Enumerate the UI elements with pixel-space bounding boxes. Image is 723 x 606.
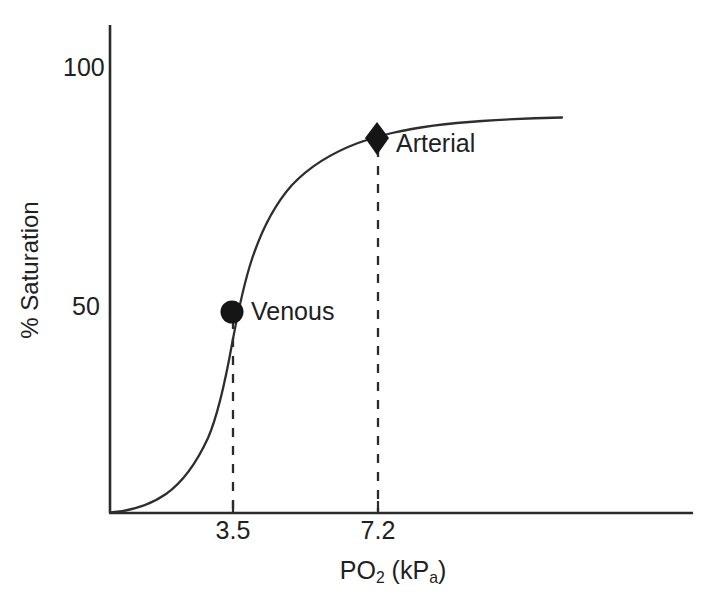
annotation-label-venous: Venous [251, 299, 334, 324]
marker-arterial [365, 122, 389, 155]
x-axis-title-pre: PO [340, 556, 376, 584]
x-axis-tick-label-arterial: 7.2 [361, 518, 396, 543]
x-axis-title-sub-2: 2 [376, 569, 385, 586]
x-axis-title-post: ) [438, 556, 446, 584]
x-axis-title: PO2 (kPa) [340, 558, 446, 586]
x-axis-tick-label-venous: 3.5 [216, 518, 251, 543]
x-axis-title-mid: (kP [385, 556, 429, 584]
marker-venous [221, 301, 244, 324]
y-axis-tick-label-50: 50 [72, 294, 100, 319]
x-axis-title-sub-a: a [429, 569, 438, 586]
y-axis-tick-label-100: 100 [63, 55, 105, 80]
y-axis-title: % Saturation [18, 201, 42, 338]
dissociation-curve [111, 118, 563, 513]
oxygen-dissociation-curve-figure: 100 50 % Saturation 3.5 7.2 PO2 (kPa) Ve… [0, 0, 723, 606]
annotation-label-arterial: Arterial [396, 131, 475, 156]
